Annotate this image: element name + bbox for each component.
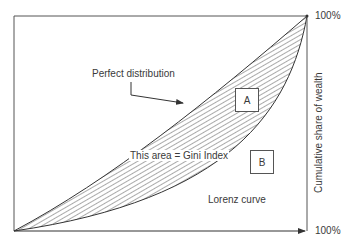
lorenz-curve-label: Lorenz curve: [208, 194, 266, 205]
area-b-box: B: [250, 150, 274, 174]
x-max-label: 100%: [315, 225, 341, 236]
perfect-distribution-label: Perfect distribution: [92, 68, 175, 79]
y-axis-label: Cumulative share of wealth: [313, 72, 324, 193]
top-right-point: [306, 15, 309, 18]
y-max-label: 100%: [315, 10, 341, 21]
pointer-arrow: [131, 82, 183, 103]
gini-diagram: [0, 0, 353, 246]
gini-area-label: This area = Gini Index: [129, 150, 229, 161]
area-a-box: A: [235, 88, 259, 112]
